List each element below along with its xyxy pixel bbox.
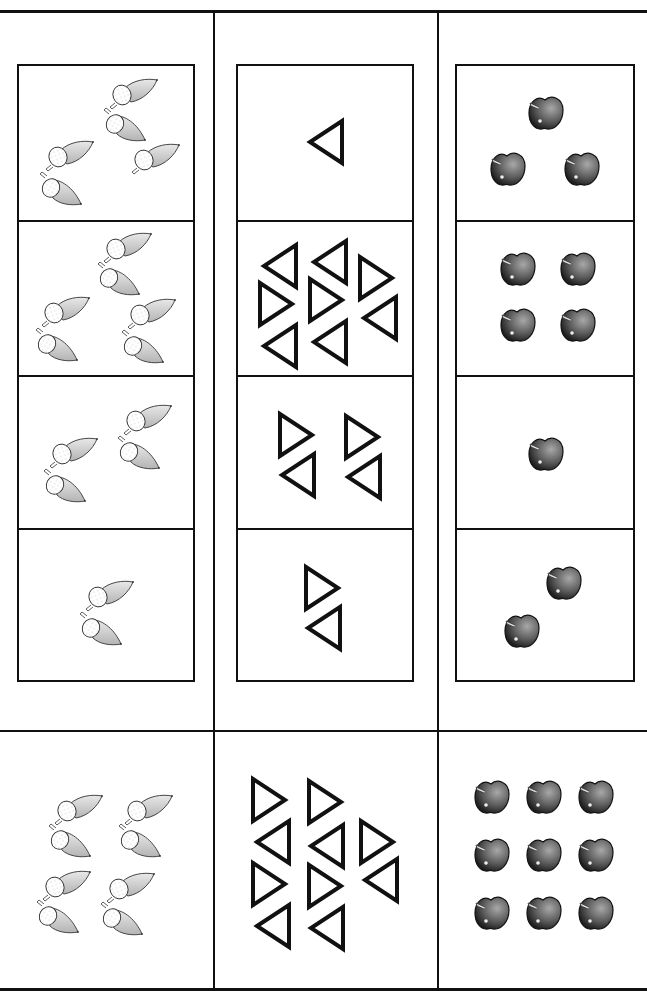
acorns-cell-3[interactable]	[19, 375, 193, 530]
apples-cell-3[interactable]	[457, 375, 633, 530]
apples-cell-4[interactable]	[457, 528, 633, 682]
acorn-icon	[129, 141, 181, 175]
apple-icon	[497, 248, 537, 288]
acorn-icon	[83, 578, 135, 612]
acorn-icon	[95, 260, 147, 298]
triangle-left-icon	[278, 451, 318, 499]
acorns-cell-4[interactable]	[19, 528, 193, 682]
triangle-right-icon	[249, 860, 289, 908]
top-rule	[0, 10, 647, 13]
apple-icon	[501, 610, 541, 650]
apple-icon	[525, 92, 565, 132]
acorns-cell-2[interactable]	[19, 220, 193, 377]
apple-icon	[471, 834, 511, 874]
triangle-left-icon	[344, 453, 384, 501]
triangle-left-icon	[306, 118, 346, 166]
apple-icon	[523, 834, 563, 874]
acorn-icon	[52, 792, 104, 826]
triangle-left-icon	[253, 818, 293, 866]
apple-icon	[471, 776, 511, 816]
acorn-icon	[122, 792, 174, 826]
triangle-left-icon	[310, 318, 350, 366]
triangle-left-icon	[260, 322, 300, 370]
apple-icon	[525, 433, 565, 473]
apple-icon	[543, 562, 583, 602]
acorn-icon	[115, 434, 167, 472]
triangles-cell-2[interactable]	[238, 220, 412, 377]
triangles-cell-4[interactable]	[238, 528, 412, 682]
apple-icon	[557, 248, 597, 288]
triangles-cell-3[interactable]	[238, 375, 412, 530]
apples-cell-1[interactable]	[457, 66, 633, 220]
acorn-icon	[46, 822, 98, 860]
apple-icon	[557, 304, 597, 344]
triangle-left-icon	[253, 902, 293, 950]
apple-icon	[497, 304, 537, 344]
acorn-icon	[119, 328, 171, 366]
acorn-icon	[37, 170, 89, 208]
apple-icon	[575, 834, 615, 874]
acorn-icon	[40, 868, 92, 902]
acorns-answer-cell[interactable]	[0, 730, 213, 988]
triangle-left-icon	[361, 856, 401, 904]
acorn-icon	[107, 76, 159, 110]
acorn-icon	[77, 610, 129, 648]
acorn-icon	[41, 467, 93, 505]
triangles-cell-1[interactable]	[238, 66, 412, 220]
acorn-icon	[34, 898, 86, 936]
acorns-column-box	[17, 64, 195, 682]
acorn-icon	[101, 106, 153, 144]
triangle-left-icon	[360, 294, 400, 342]
apple-icon	[471, 892, 511, 932]
triangle-right-icon	[249, 776, 289, 824]
acorn-icon	[104, 870, 156, 904]
acorn-icon	[121, 402, 173, 436]
apple-icon	[487, 148, 527, 188]
apple-icon	[523, 776, 563, 816]
triangle-right-icon	[305, 862, 345, 910]
triangles-column-box	[236, 64, 414, 682]
acorn-icon	[47, 435, 99, 469]
triangle-right-icon	[305, 778, 345, 826]
apple-icon	[575, 776, 615, 816]
acorn-icon	[101, 230, 153, 264]
acorn-icon	[98, 900, 150, 938]
acorn-icon	[125, 296, 177, 330]
apple-icon	[561, 148, 601, 188]
acorns-cell-1[interactable]	[19, 66, 193, 220]
triangle-left-icon	[307, 904, 347, 952]
apples-answer-cell[interactable]	[437, 730, 647, 988]
acorn-icon	[33, 326, 85, 364]
apples-cell-2[interactable]	[457, 220, 633, 377]
triangle-right-icon	[256, 280, 296, 328]
triangle-left-icon	[304, 604, 344, 652]
apple-icon	[575, 892, 615, 932]
acorn-icon	[39, 294, 91, 328]
apple-icon	[523, 892, 563, 932]
bottom-rule	[0, 988, 647, 991]
apples-column-box	[455, 64, 635, 682]
acorn-icon	[43, 138, 95, 172]
triangles-answer-cell[interactable]	[213, 730, 437, 988]
triangle-right-icon	[306, 276, 346, 324]
acorn-icon	[116, 822, 168, 860]
